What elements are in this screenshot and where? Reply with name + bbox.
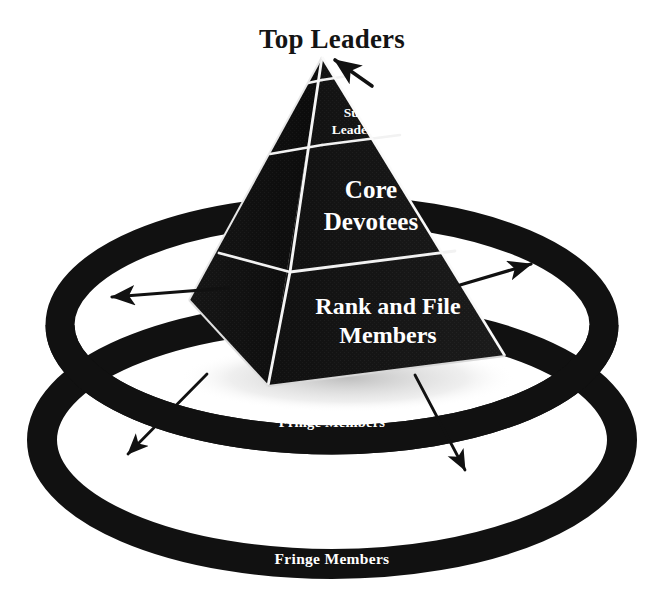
arrow-to-apex <box>335 60 372 86</box>
outer-ring-label: Fringe Members <box>275 550 390 567</box>
level-label-sub-leaders-line2: Leaders <box>332 122 379 137</box>
level-label-core-devotees-line2: Devotees <box>324 208 419 235</box>
diagram-canvas: Fringe Members <box>0 0 665 599</box>
level-label-rank-and-file-line1: Rank and File <box>315 293 461 319</box>
cult-pyramid-diagram: Fringe Members <box>0 0 665 599</box>
level-label-sub-leaders-line1: Sub <box>344 105 367 120</box>
level-label-rank-and-file-line2: Members <box>339 322 436 348</box>
arrow-right-outward <box>460 264 531 285</box>
page-title: Top Leaders <box>259 24 405 54</box>
inner-ring-label: Fringe Members <box>279 414 385 430</box>
level-label-core-devotees-line1: Core <box>345 176 397 203</box>
